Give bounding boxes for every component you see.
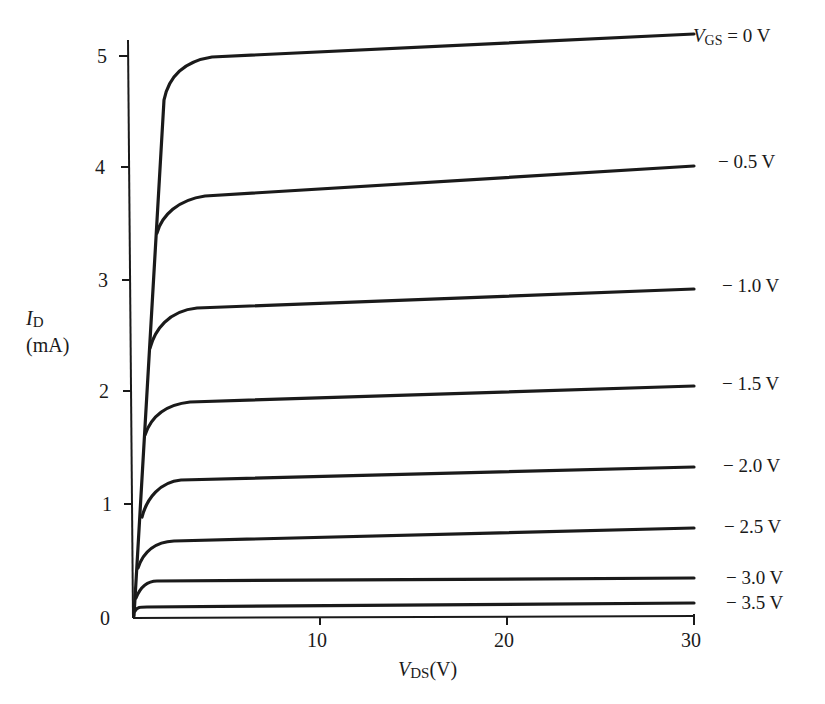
curve-vgs-minus-1.0 <box>150 289 694 348</box>
y-tick-label-2: 2 <box>99 380 109 402</box>
y-axis-title: ID <box>25 307 44 330</box>
curve-label-minus-0.5: − 0.5 V <box>718 151 776 172</box>
y-tick-labels: 0 1 2 3 4 5 <box>95 45 112 629</box>
x-tick-label-30: 30 <box>681 629 701 651</box>
y-axis-unit: (mA) <box>26 334 69 357</box>
y-tick-label-5: 5 <box>97 45 107 67</box>
vgs-subscript: GS <box>705 33 723 48</box>
curve-label-minus-2.0: − 2.0 V <box>723 455 781 476</box>
curve-label-minus-2.5: − 2.5 V <box>724 516 782 537</box>
x-axis-unit: (V) <box>429 658 457 681</box>
curve-vgs-minus-3.5 <box>135 603 694 611</box>
x-tick-labels: 10 20 30 <box>307 629 701 651</box>
curve-vgs-minus-3.0 <box>136 578 694 598</box>
y-tick-label-4: 4 <box>95 156 105 178</box>
curve-label-minus-3.5: − 3.5 V <box>726 592 784 613</box>
curve-labels: VGS = 0 V − 0.5 V − 1.0 V − 1.5 V − 2.0 … <box>693 25 784 613</box>
axes <box>119 40 694 625</box>
curve-vgs-minus-2.0 <box>142 467 694 517</box>
curve-label-minus-3.0: − 3.0 V <box>726 567 784 588</box>
vgs-value: = 0 V <box>723 25 771 46</box>
curve-label-vgs-0: VGS = 0 V <box>693 25 771 48</box>
y-axis <box>128 40 133 618</box>
curve-vgs-minus-2.5 <box>138 528 694 568</box>
x-tick-label-10: 10 <box>307 629 327 651</box>
x-axis <box>133 616 694 618</box>
curve-label-minus-1.0: − 1.0 V <box>722 275 780 296</box>
curve-label-minus-1.5: − 1.5 V <box>722 373 780 394</box>
y-tick-label-3: 3 <box>98 269 108 291</box>
y-axis-subscript: D <box>33 314 44 330</box>
curves <box>134 34 694 616</box>
y-tick-label-0: 0 <box>100 607 110 629</box>
y-tick-label-1: 1 <box>102 493 112 515</box>
curve-vgs-minus-1.5 <box>145 386 694 435</box>
curve-vgs-minus-0.5 <box>157 166 694 233</box>
x-axis-title: VDS(V) <box>398 658 457 681</box>
x-tick-label-20: 20 <box>494 629 514 651</box>
jfet-drain-characteristics-chart: 0 1 2 3 4 5 10 20 30 ID (mA) VDS(V) VGS … <box>0 0 825 704</box>
x-axis-subscript: DS <box>410 665 429 681</box>
